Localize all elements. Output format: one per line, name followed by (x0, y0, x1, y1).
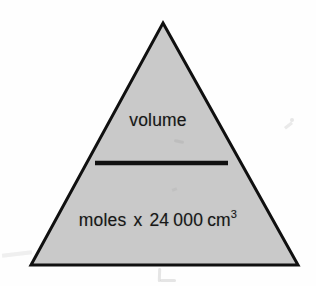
unit-label: cm (207, 210, 231, 231)
molar-volume-value-lead: 24 (149, 210, 169, 231)
molar-volume-value-tail: 000 (173, 210, 203, 231)
diagram-canvas: volume molesx24000cm3 (0, 0, 316, 286)
unit-exponent: 3 (231, 208, 237, 220)
numerator-label: volume (0, 110, 316, 131)
multiplication-operator: x (133, 210, 142, 231)
denominator-expression: molesx24000cm3 (0, 210, 316, 231)
formula-triangle-graphic (0, 0, 316, 286)
denominator-quantity-label: moles (79, 210, 127, 231)
